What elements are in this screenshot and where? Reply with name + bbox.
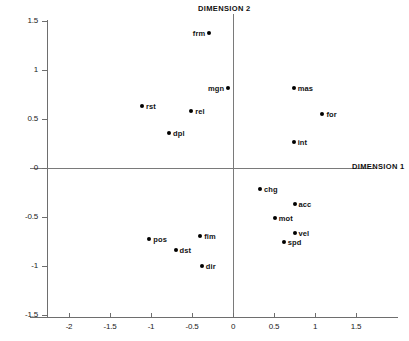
data-point-marker[interactable] (282, 240, 286, 244)
data-point-marker[interactable] (273, 216, 277, 220)
data-point-marker[interactable] (293, 231, 297, 235)
scatter-plot-figure: DIMENSION 2 DIMENSION 1 1.510.50-0.5-1-1… (0, 0, 409, 341)
x-tick-mark (110, 313, 111, 318)
y-axis-title: DIMENSION 2 (198, 4, 251, 13)
x-tick-label: -2 (54, 322, 84, 331)
y-tick-mark (42, 168, 47, 169)
data-point-marker[interactable] (167, 131, 171, 135)
y-tick-mark (42, 217, 47, 218)
data-point-label: dir (206, 262, 216, 271)
x-tick-label: -1 (136, 322, 166, 331)
x-tick-label: 1 (300, 322, 330, 331)
x-tick-label: 0 (218, 322, 248, 331)
data-point-marker[interactable] (198, 234, 202, 238)
x-tick-label: -1.5 (95, 322, 125, 331)
y-tick-label: 1.5 (10, 16, 38, 25)
y-tick-mark (42, 21, 47, 22)
y-tick-label: -0.5 (10, 212, 38, 221)
y-tick-mark (42, 315, 47, 316)
data-point-marker[interactable] (200, 264, 204, 268)
data-point-label: chg (264, 184, 278, 193)
x-tick-label: -0.5 (177, 322, 207, 331)
data-point-marker[interactable] (320, 112, 324, 116)
data-point-label: fim (204, 231, 216, 240)
data-point-label: vel (299, 228, 310, 237)
data-point-label: rst (146, 102, 156, 111)
vertical-zero-axis (233, 14, 234, 318)
y-tick-label: 1 (10, 65, 38, 74)
x-axis-spine (30, 317, 398, 318)
data-point-label: dpl (173, 128, 185, 137)
x-tick-mark (151, 313, 152, 318)
x-tick-mark (315, 313, 316, 318)
data-point-label: dst (180, 246, 192, 255)
data-point-label: mgn (208, 83, 224, 92)
y-tick-mark (42, 70, 47, 71)
data-point-marker[interactable] (174, 248, 178, 252)
data-point-marker[interactable] (292, 140, 296, 144)
data-point-marker[interactable] (258, 187, 262, 191)
data-point-label: frm (193, 28, 205, 37)
x-tick-label: 0.5 (259, 322, 289, 331)
data-point-label: mot (279, 213, 293, 222)
x-tick-mark (69, 313, 70, 318)
data-point-marker[interactable] (147, 237, 151, 241)
data-point-label: rel (195, 107, 204, 116)
data-point-marker[interactable] (140, 104, 144, 108)
data-point-marker[interactable] (292, 86, 296, 90)
y-tick-mark (42, 266, 47, 267)
x-tick-label: 1.5 (341, 322, 371, 331)
data-point-label: mas (298, 83, 313, 92)
data-point-marker[interactable] (293, 202, 297, 206)
data-point-label: pos (153, 234, 167, 243)
x-tick-mark (192, 313, 193, 318)
horizontal-zero-axis (30, 168, 375, 169)
x-tick-mark (356, 313, 357, 318)
data-point-label: acc (299, 200, 312, 209)
plot-area: DIMENSION 2 DIMENSION 1 1.510.50-0.5-1-1… (0, 0, 409, 341)
y-tick-mark (42, 119, 47, 120)
data-point-label: spd (288, 237, 302, 246)
data-point-label: int (298, 137, 307, 146)
y-tick-label: -1.5 (10, 310, 38, 319)
y-tick-label: 0.5 (10, 114, 38, 123)
y-axis-spine (47, 20, 48, 318)
y-tick-label: 0 (10, 163, 38, 172)
data-point-label: for (326, 110, 336, 119)
x-axis-title: DIMENSION 1 (352, 162, 405, 171)
x-tick-mark (233, 313, 234, 318)
y-tick-label: -1 (10, 261, 38, 270)
data-point-marker[interactable] (207, 31, 211, 35)
data-point-marker[interactable] (226, 86, 230, 90)
data-point-marker[interactable] (189, 109, 193, 113)
x-tick-mark (274, 313, 275, 318)
